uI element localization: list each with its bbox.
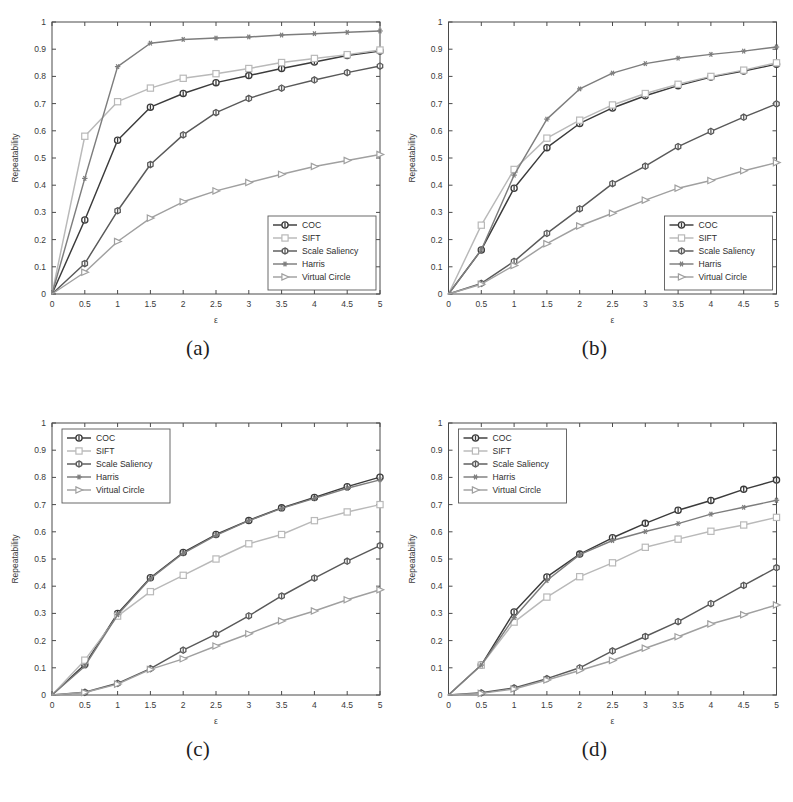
legend-label: SIFT [699, 233, 718, 243]
legend-label: Scale Saliency [493, 459, 550, 469]
x-tick-label: 3 [643, 299, 648, 309]
series-sift [449, 514, 780, 695]
x-tick-label: 4.5 [738, 700, 750, 710]
panel-caption-b: (b) [396, 336, 793, 361]
repeatability-chart-b: 00.511.522.533.544.55ε00.10.20.30.40.50.… [396, 0, 793, 340]
x-tick-label: 3 [246, 299, 251, 309]
x-axis-title: ε [214, 315, 218, 325]
x-axis-title: ε [611, 315, 615, 325]
x-tick-label: 1.5 [144, 299, 156, 309]
y-tick-label: 0.3 [34, 608, 46, 618]
x-tick-label: 0.5 [79, 700, 91, 710]
y-tick-label: 1 [41, 17, 46, 27]
legend-label: Virtual Circle [493, 485, 542, 495]
x-tick-label: 0 [446, 299, 451, 309]
x-tick-label: 1 [512, 700, 517, 710]
repeatability-figure: 00.511.522.533.544.55ε00.10.20.30.40.50.… [0, 0, 793, 802]
y-tick-label: 0 [41, 289, 46, 299]
y-tick-label: 0.6 [34, 126, 46, 136]
y-tick-label: 0.7 [34, 99, 46, 109]
y-tick-label: 0.1 [431, 262, 443, 272]
x-tick-label: 0.5 [475, 700, 487, 710]
y-tick-label: 0.4 [431, 180, 443, 190]
y-tick-label: 0.8 [34, 71, 46, 81]
x-tick-label: 4.5 [341, 700, 353, 710]
y-tick-label: 0.5 [431, 153, 443, 163]
x-tick-label: 2 [181, 700, 186, 710]
chart-legend: COCSIFTScale SaliencyHarrisVirtual Circl… [459, 429, 567, 503]
x-tick-label: 1 [115, 700, 120, 710]
x-tick-label: 1 [115, 299, 120, 309]
x-tick-label: 2.5 [210, 299, 222, 309]
x-tick-label: 0.5 [79, 299, 91, 309]
legend-label: COC [302, 220, 321, 230]
x-tick-label: 2 [577, 700, 582, 710]
y-axis-title: Repeatability [10, 133, 20, 183]
x-tick-label: 3.5 [276, 299, 288, 309]
y-tick-label: 0.4 [34, 581, 46, 591]
x-tick-label: 4.5 [341, 299, 353, 309]
x-tick-label: 4 [312, 299, 317, 309]
x-tick-label: 0 [50, 700, 55, 710]
x-tick-label: 2.5 [210, 700, 222, 710]
legend-label: Scale Saliency [302, 246, 359, 256]
chart-panel-b: 00.511.522.533.544.55ε00.10.20.30.40.50.… [396, 0, 793, 401]
x-tick-label: 2.5 [607, 299, 619, 309]
legend-label: COC [493, 433, 512, 443]
legend-label: Virtual Circle [96, 485, 145, 495]
y-tick-label: 0 [438, 289, 443, 299]
x-tick-label: 1.5 [541, 299, 553, 309]
x-tick-label: 3 [643, 700, 648, 710]
legend-label: Virtual Circle [302, 272, 351, 282]
legend-label: SIFT [302, 233, 321, 243]
series-harris [52, 478, 383, 695]
chart-panel-c: 00.511.522.533.544.55ε00.10.20.30.40.50.… [0, 401, 396, 802]
x-tick-label: 3.5 [276, 700, 288, 710]
y-tick-label: 0 [438, 690, 443, 700]
y-tick-label: 0.5 [431, 554, 443, 564]
x-tick-label: 5 [774, 299, 779, 309]
y-tick-label: 0.2 [34, 235, 46, 245]
series-sift [52, 502, 383, 696]
x-tick-label: 5 [378, 700, 383, 710]
y-tick-label: 0.6 [431, 527, 443, 537]
x-tick-label: 0.5 [475, 299, 487, 309]
legend-label: COC [96, 433, 115, 443]
repeatability-chart-a: 00.511.522.533.544.55ε00.10.20.30.40.50.… [0, 0, 396, 340]
x-tick-label: 4.5 [738, 299, 750, 309]
y-tick-label: 0.5 [34, 554, 46, 564]
y-tick-label: 0.3 [431, 207, 443, 217]
series-scale-saliency [52, 543, 383, 696]
chart-legend: COCSIFTScale SaliencyHarrisVirtual Circl… [62, 429, 170, 503]
y-tick-label: 1 [438, 418, 443, 428]
y-tick-label: 0.5 [34, 153, 46, 163]
x-tick-label: 5 [774, 700, 779, 710]
y-tick-label: 0.2 [34, 636, 46, 646]
repeatability-chart-d: 00.511.522.533.544.55ε00.10.20.30.40.50.… [396, 401, 793, 741]
y-tick-label: 0.4 [34, 180, 46, 190]
repeatability-chart-c: 00.511.522.533.544.55ε00.10.20.30.40.50.… [0, 401, 396, 741]
legend-label: Harris [699, 259, 722, 269]
y-tick-label: 0.2 [431, 636, 443, 646]
y-tick-label: 0.4 [431, 581, 443, 591]
series-coc [52, 474, 383, 695]
legend-label: Scale Saliency [96, 459, 153, 469]
y-axis-title: Repeatability [407, 534, 417, 584]
legend-label: SIFT [96, 446, 115, 456]
y-tick-label: 0.6 [34, 527, 46, 537]
panel-caption-d: (d) [396, 737, 793, 762]
x-tick-label: 2 [577, 299, 582, 309]
x-tick-label: 0 [446, 700, 451, 710]
legend-label: Virtual Circle [699, 272, 748, 282]
legend-label: Scale Saliency [699, 246, 756, 256]
y-tick-label: 0.6 [431, 126, 443, 136]
x-tick-label: 3.5 [672, 700, 684, 710]
y-tick-label: 0.7 [34, 500, 46, 510]
x-tick-label: 1 [512, 299, 517, 309]
chart-legend: COCSIFTScale SaliencyHarrisVirtual Circl… [268, 216, 376, 290]
x-tick-label: 3 [246, 700, 251, 710]
y-tick-label: 0.1 [34, 262, 46, 272]
y-tick-label: 0.9 [431, 445, 443, 455]
y-tick-label: 0.8 [431, 472, 443, 482]
chart-panel-d: 00.511.522.533.544.55ε00.10.20.30.40.50.… [396, 401, 793, 802]
